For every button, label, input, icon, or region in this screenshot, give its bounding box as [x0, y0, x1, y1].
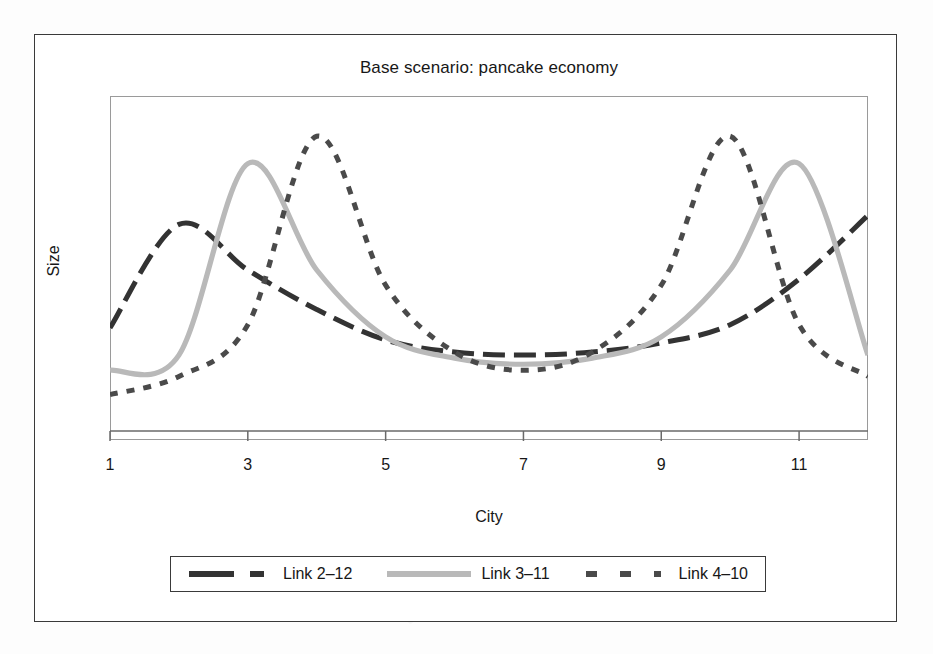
x-axis — [100, 430, 890, 460]
legend-line-sample-icon — [386, 567, 472, 581]
plot-series-canvas — [110, 96, 868, 440]
figure-page: Base scenario: pancake economy Size 1357… — [0, 0, 933, 654]
legend-line-sample-icon — [188, 567, 274, 581]
x-tick-label-3: 3 — [243, 456, 252, 474]
x-tick-label-11: 11 — [791, 456, 808, 474]
chart-legend: Link 2–12Link 3–11Link 4–10 — [170, 556, 766, 592]
legend-label: Link 4–10 — [679, 565, 748, 583]
y-axis-label: Size — [45, 201, 63, 321]
legend-entry-2: Link 3–11 — [386, 565, 549, 583]
legend-label: Link 2–12 — [283, 565, 352, 583]
legend-entry-3: Link 4–10 — [584, 565, 748, 583]
x-tick-label-9: 9 — [657, 456, 666, 474]
legend-line-sample-icon — [584, 567, 670, 581]
x-tick-label-1: 1 — [106, 456, 115, 474]
series-line-2 — [110, 162, 868, 375]
series-line-1 — [110, 215, 868, 355]
chart-title: Base scenario: pancake economy — [110, 58, 868, 78]
x-tick-label-5: 5 — [381, 456, 390, 474]
legend-label: Link 3–11 — [481, 565, 549, 583]
legend-entry-1: Link 2–12 — [188, 565, 352, 583]
x-tick-label-7: 7 — [519, 456, 528, 474]
x-axis-label: City — [110, 508, 868, 526]
